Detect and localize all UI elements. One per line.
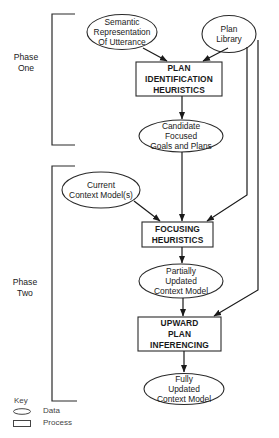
edge-semantic-to-plan-identification <box>143 48 167 61</box>
edge-current-context-to-focusing <box>134 201 160 221</box>
fully-updated-label: Fully Updated Context Model <box>144 374 224 404</box>
key-ellipse-icon <box>14 409 31 415</box>
current-context-label: Current Context Model(s) <box>62 180 140 200</box>
key-data-label: Data <box>43 406 60 416</box>
semantic-representation-label: Semantic Representation Of Utterance <box>87 17 157 47</box>
focusing-heuristics-label: FOCUSING HEURISTICS <box>142 224 213 246</box>
label-line: Semantic <box>87 17 157 27</box>
label-line: Updated <box>144 384 224 394</box>
label-line: IDENTIFICATION <box>136 74 222 85</box>
label-line: Current <box>62 180 140 190</box>
upward-plan-label: UPWARD PLAN INFERENCING <box>138 318 221 351</box>
label-line: PLAN <box>138 329 221 340</box>
candidate-goals-label: Candidate Focused Goals and Plans <box>139 121 223 151</box>
label-line: Context Model <box>144 394 224 404</box>
label-line: HEURISTICS <box>136 85 222 96</box>
phase-one-label-line2: One <box>10 63 42 74</box>
label-line: Fully <box>144 374 224 384</box>
label-line: INFERENCING <box>138 340 221 351</box>
label-line: Context Model <box>139 286 223 296</box>
label-line: Library <box>202 34 256 44</box>
label-line: Context Model(s) <box>62 190 140 200</box>
key-process-label: Process <box>43 418 72 428</box>
label-line: Focused <box>139 131 223 141</box>
label-line: Representation <box>87 27 157 37</box>
label-line: UPWARD <box>138 318 221 329</box>
label-line: FOCUSING <box>142 224 213 235</box>
phase-two-label-line2: Two <box>9 288 41 299</box>
label-line: Updated <box>139 276 223 286</box>
label-line: HEURISTICS <box>142 235 213 246</box>
plan-identification-label: PLAN IDENTIFICATION HEURISTICS <box>136 63 222 96</box>
phase-two-label: Phase Two <box>9 277 41 299</box>
key-title: Key <box>14 396 28 406</box>
label-line: Of Utterance <box>87 37 157 47</box>
phase-two-label-line1: Phase <box>9 277 41 288</box>
label-line: Candidate <box>139 121 223 131</box>
phase-one-label-line1: Phase <box>10 52 42 63</box>
phase-one-bracket <box>52 14 75 145</box>
label-line: Goals and Plans <box>139 141 223 151</box>
label-line: Plan <box>202 24 256 34</box>
partially-updated-label: Partially Updated Context Model <box>139 266 223 296</box>
phase-one-label: Phase One <box>10 52 42 74</box>
label-line: Partially <box>139 266 223 276</box>
key-rectangle-icon <box>14 421 31 427</box>
label-line: PLAN <box>136 63 222 74</box>
plan-library-label: Plan Library <box>202 24 256 44</box>
